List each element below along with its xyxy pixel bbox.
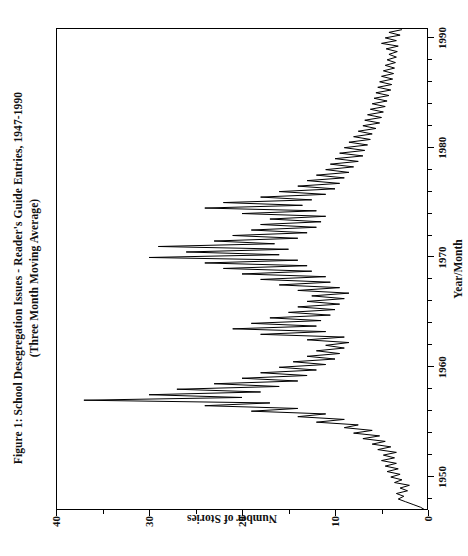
figure-title-line-1: Figure 1: School Desegregation Issues - … (10, 0, 26, 556)
x-tick-label-1970: 1970 (436, 246, 448, 268)
x-axis-title: Year/Month (452, 28, 464, 510)
data-line-layer (56, 28, 428, 510)
x-tick-1968 (428, 278, 432, 279)
x-tick-1984 (428, 103, 432, 104)
x-tick-1990 (428, 37, 434, 38)
y-tick-label-0: 0 (422, 516, 434, 522)
series-line-school-desegregation (56, 28, 428, 510)
x-tick-label-1960: 1960 (436, 356, 448, 378)
x-tick-1960 (428, 366, 434, 367)
x-tick-1972 (428, 235, 432, 236)
x-tick-label-1990: 1990 (436, 27, 448, 49)
y-tick-35 (103, 510, 104, 514)
x-tick-1952 (428, 454, 432, 455)
x-axis-tick-labels: 19501960197019801990 (436, 28, 452, 510)
plot-area (56, 28, 428, 510)
chart-figure-root: Figure 1: School Desegregation Issues - … (0, 0, 468, 556)
x-tick-1980 (428, 147, 434, 148)
figure-title-line-2: (Three Month Moving Average) (26, 0, 42, 556)
x-tick-1950 (428, 476, 434, 477)
x-tick-1966 (428, 300, 432, 301)
x-tick-label-1980: 1980 (436, 137, 448, 159)
x-tick-label-1950: 1950 (436, 466, 448, 488)
x-tick-1988 (428, 59, 432, 60)
x-tick-1956 (428, 410, 432, 411)
y-axis-title: Number of Stories (117, 513, 347, 525)
x-tick-1954 (428, 432, 432, 433)
x-tick-1986 (428, 81, 432, 82)
x-tick-1976 (428, 191, 432, 192)
x-tick-1958 (428, 388, 432, 389)
figure-title: Figure 1: School Desegregation Issues - … (10, 0, 42, 556)
x-tick-1974 (428, 213, 432, 214)
x-tick-1962 (428, 344, 432, 345)
y-tick-label-40: 40 (50, 516, 62, 527)
x-tick-1948 (428, 498, 432, 499)
y-tick-5 (382, 510, 383, 514)
x-tick-1964 (428, 322, 432, 323)
x-tick-1978 (428, 169, 432, 170)
x-tick-1970 (428, 256, 434, 257)
rotated-figure: Figure 1: School Desegregation Issues - … (0, 0, 468, 556)
x-tick-1982 (428, 125, 432, 126)
